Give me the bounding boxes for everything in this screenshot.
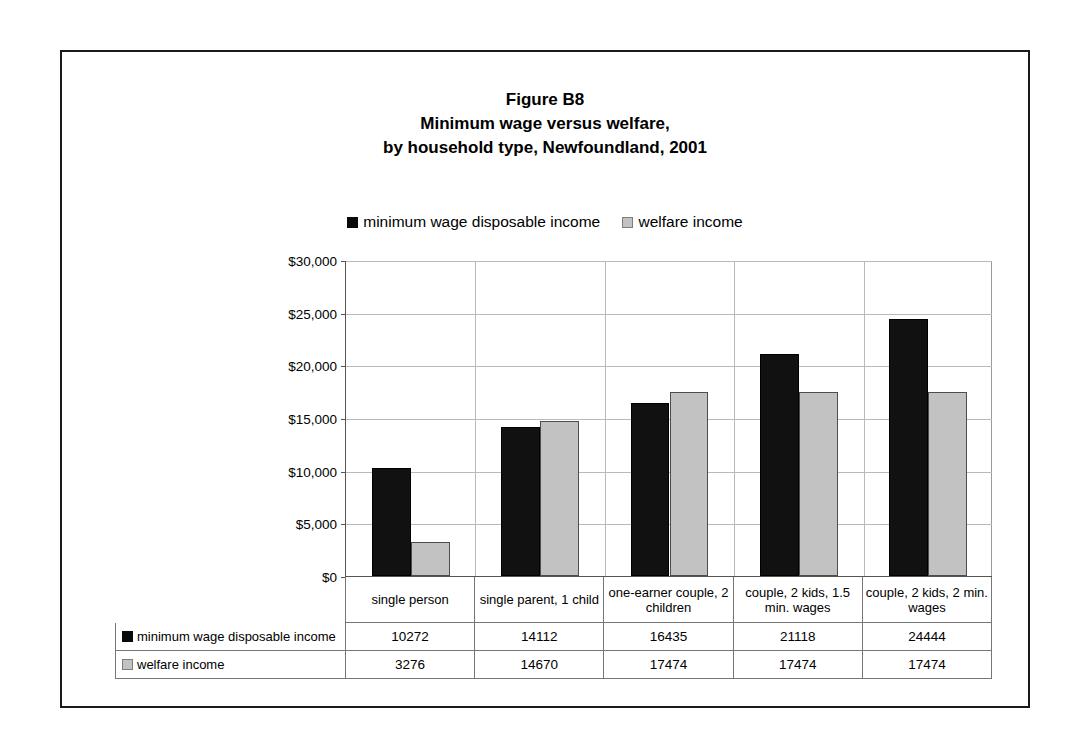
category-label-band: single personsingle parent, 1 childone-e… <box>345 577 992 623</box>
y-axis-tick-label: $10,000 <box>288 464 337 479</box>
table-row-label-text: welfare income <box>137 657 224 672</box>
data-table: minimum wage disposable income1027214112… <box>115 623 992 679</box>
y-axis-tick <box>341 366 346 367</box>
black-square-icon <box>122 631 133 642</box>
gridline <box>346 314 992 315</box>
y-axis-tick-label: $20,000 <box>288 359 337 374</box>
y-axis-tick <box>341 524 346 525</box>
gray-square-icon <box>122 659 133 670</box>
category-separator <box>475 261 476 576</box>
plot-area: $30,000$25,000$20,000$15,000$10,000$5,00… <box>345 261 992 577</box>
bar-welfare <box>928 392 967 576</box>
category-label: single parent, 1 child <box>475 577 604 622</box>
table-cell-value: 21118 <box>734 623 863 650</box>
black-square-icon <box>347 217 358 228</box>
y-axis-tick-label: $15,000 <box>288 412 337 427</box>
table-cell-value: 17474 <box>604 651 733 678</box>
table-row: minimum wage disposable income1027214112… <box>116 623 991 651</box>
bar-minimum-wage <box>501 427 540 576</box>
y-axis-tick-label: $25,000 <box>288 306 337 321</box>
table-row-label: minimum wage disposable income <box>116 623 346 650</box>
category-separator <box>734 261 735 576</box>
bar-welfare <box>411 542 450 577</box>
bar-minimum-wage <box>889 319 928 576</box>
bar-welfare <box>799 392 838 576</box>
gray-square-icon <box>622 217 633 228</box>
y-axis-tick <box>341 314 346 315</box>
y-axis-tick-label: $0 <box>322 570 337 585</box>
chart-title-line-1: Figure B8 <box>62 88 1028 112</box>
table-cell-value: 17474 <box>863 651 991 678</box>
table-cell-value: 3276 <box>346 651 475 678</box>
bar-welfare <box>670 392 709 576</box>
bar-welfare <box>540 421 579 576</box>
category-label: couple, 2 kids, 1.5 min. wages <box>734 577 863 622</box>
table-cell-value: 17474 <box>734 651 863 678</box>
table-cell-value: 16435 <box>604 623 733 650</box>
table-row-label: welfare income <box>116 651 346 678</box>
table-cell-value: 14112 <box>475 623 604 650</box>
y-axis-tick <box>341 419 346 420</box>
bar-minimum-wage <box>760 354 799 576</box>
bar-minimum-wage <box>631 403 670 576</box>
y-axis-tick <box>341 261 346 262</box>
legend-label-minimum-wage: minimum wage disposable income <box>363 213 600 230</box>
category-label: one-earner couple, 2 children <box>604 577 733 622</box>
table-row-label-text: minimum wage disposable income <box>137 629 336 644</box>
category-separator <box>605 261 606 576</box>
legend-entry-minimum-wage: minimum wage disposable income <box>347 213 600 231</box>
chart-title-line-3: by household type, Newfoundland, 2001 <box>62 136 1028 160</box>
bar-minimum-wage <box>372 468 411 576</box>
table-cell-value: 24444 <box>863 623 991 650</box>
gridline <box>346 261 992 262</box>
table-row: welfare income327614670174741747417474 <box>116 651 991 678</box>
category-label: single person <box>346 577 475 622</box>
table-cell-value: 10272 <box>346 623 475 650</box>
legend-label-welfare: welfare income <box>638 213 742 230</box>
plot-wrapper: $30,000$25,000$20,000$15,000$10,000$5,00… <box>345 261 992 577</box>
table-cell-value: 14670 <box>475 651 604 678</box>
y-axis-tick-label: $5,000 <box>296 517 337 532</box>
category-label: couple, 2 kids, 2 min. wages <box>863 577 991 622</box>
category-separator <box>864 261 865 576</box>
y-axis-tick-label: $30,000 <box>288 254 337 269</box>
chart-title: Figure B8 Minimum wage versus welfare, b… <box>62 88 1028 160</box>
legend-entry-welfare: welfare income <box>622 213 742 231</box>
chart-title-line-2: Minimum wage versus welfare, <box>62 112 1028 136</box>
figure-frame: Figure B8 Minimum wage versus welfare, b… <box>60 50 1030 708</box>
y-axis-tick <box>341 472 346 473</box>
chart-legend: minimum wage disposable income welfare i… <box>62 212 1028 231</box>
